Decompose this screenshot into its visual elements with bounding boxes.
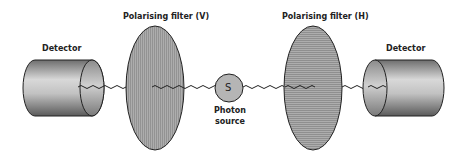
label-source-letter: S (225, 83, 231, 93)
label-filter-h: Polarising filter (H) (282, 12, 369, 22)
label-filter-v: Polarising filter (V) (123, 12, 209, 22)
label-detector-right: Detector (386, 44, 425, 54)
diagram-canvas: Detector Polarising filter (V) S Photon … (0, 0, 469, 163)
detector-left (23, 60, 104, 116)
label-photon-source-line1: Photon (210, 106, 250, 116)
label-detector-left: Detector (42, 44, 81, 54)
label-photon-source-line2: source (210, 117, 250, 127)
